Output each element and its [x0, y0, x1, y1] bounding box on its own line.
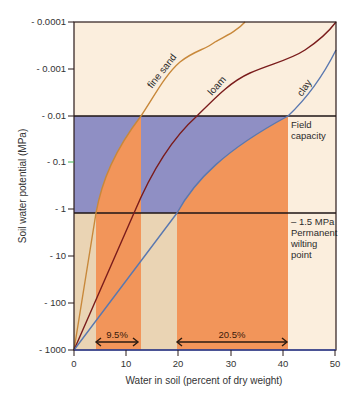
svg-text:- 0.01: - 0.01 [42, 110, 66, 121]
svg-text:20.5%: 20.5% [219, 329, 246, 340]
y-axis-tick-labels: - 0.0001 - 0.001 - 0.01 - 0.1 - 1 - 10 -… [31, 16, 66, 355]
x-axis-title: Water in soil (percent of dry weight) [126, 375, 283, 386]
x-axis-ticks [74, 350, 335, 356]
svg-text:40: 40 [278, 358, 289, 369]
y-axis-ticks [68, 22, 74, 350]
svg-text:- 1000: - 1000 [39, 344, 66, 355]
x-axis-tick-labels: 0 10 20 30 40 50 [71, 358, 340, 369]
svg-text:9.5%: 9.5% [106, 329, 128, 340]
y-axis-title-main: Soil water potential [17, 156, 28, 243]
plot-bg-top [74, 22, 336, 116]
svg-text:- 100: - 100 [44, 297, 66, 308]
svg-text:- 10: - 10 [50, 250, 66, 261]
svg-text:20: 20 [173, 358, 184, 369]
svg-text:10: 10 [121, 358, 132, 369]
y-axis-title-units: (MPa) [17, 129, 28, 156]
soil-water-chart: fine sand loam clay 9.5% 20.5% Field cap… [0, 0, 355, 403]
svg-text:- 1: - 1 [55, 203, 66, 214]
svg-text:30: 30 [226, 358, 237, 369]
svg-text:- 0.0001: - 0.0001 [31, 16, 66, 27]
svg-text:0: 0 [71, 358, 76, 369]
svg-text:50: 50 [330, 358, 341, 369]
svg-text:- 0.1: - 0.1 [47, 156, 66, 167]
y-axis-title: Soil water potential (MPa) [17, 129, 28, 244]
svg-text:- 0.001: - 0.001 [36, 63, 66, 74]
